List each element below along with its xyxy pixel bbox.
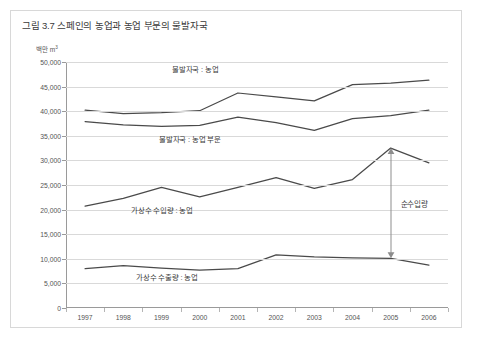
x-axis-tick-mark — [333, 308, 334, 312]
x-axis-tick-label: 1998 — [116, 314, 131, 321]
x-axis-tick-mark — [66, 308, 67, 312]
x-axis-tick-mark — [104, 308, 105, 312]
series-annotation-label: 가상수 수출량 : 농업 — [136, 271, 198, 282]
gridline — [66, 283, 448, 284]
y-axis-tick-label: 35,000 — [40, 132, 61, 139]
gridline — [66, 111, 448, 112]
y-axis-unit-text: 백만 m — [36, 46, 55, 53]
x-axis-tick-mark — [142, 308, 143, 312]
y-axis-tick-mark — [62, 234, 66, 235]
series-annotation-label: 가상수 수입량 : 농업 — [131, 204, 193, 215]
y-axis-tick-mark — [62, 136, 66, 137]
x-axis-tick-mark — [295, 308, 296, 312]
y-axis-unit-label: 백만 m3 — [36, 44, 58, 54]
series-line-가상수 수입량 : 농업 — [85, 148, 429, 206]
x-axis-tick-mark — [410, 308, 411, 312]
x-axis-tick-label: 2003 — [307, 314, 322, 321]
x-axis-tick-mark — [219, 308, 220, 312]
figure-page: 그림 3.7 스페인의 농업과 농업 부문의 물발자국 백만 m3 05,000… — [0, 0, 485, 341]
series-annotation-label: 물발자국 : 농업 부문 — [159, 133, 221, 144]
y-axis-tick-mark — [62, 111, 66, 112]
y-axis-tick-label: 25,000 — [40, 182, 61, 189]
gridline — [66, 62, 448, 63]
y-axis-tick-label: 20,000 — [40, 206, 61, 213]
y-axis-tick-label: 5,000 — [44, 280, 61, 287]
y-axis-tick-label: 30,000 — [40, 157, 61, 164]
x-axis-tick-label: 2005 — [383, 314, 398, 321]
x-axis-tick-label: 2006 — [421, 314, 436, 321]
y-axis-tick-mark — [62, 62, 66, 63]
x-axis-tick-mark — [372, 308, 373, 312]
x-axis-tick-mark — [181, 308, 182, 312]
net-import-label: 순수입량 — [401, 198, 428, 209]
x-axis-tick-label: 1999 — [154, 314, 169, 321]
gridline — [66, 87, 448, 88]
x-axis-tick-label: 2002 — [269, 314, 284, 321]
net-import-arrow — [383, 148, 399, 258]
y-axis-tick-mark — [62, 185, 66, 186]
y-axis-tick-label: 0 — [57, 305, 61, 312]
y-axis-tick-mark — [62, 283, 66, 284]
x-axis-tick-label: 1997 — [78, 314, 93, 321]
x-axis-tick-mark — [257, 308, 258, 312]
series-line-가상수 수출량 : 농업 — [85, 255, 429, 270]
x-axis-tick-label: 2001 — [230, 314, 245, 321]
y-axis-unit-superscript: 3 — [55, 45, 58, 50]
gridline — [66, 259, 448, 260]
y-axis-tick-mark — [62, 259, 66, 260]
series-line-물발자국 : 농업 — [85, 80, 429, 113]
gridline — [66, 136, 448, 137]
x-axis-tick-label: 2000 — [192, 314, 207, 321]
y-axis-tick-label: 40,000 — [40, 108, 61, 115]
y-axis-tick-label: 50,000 — [40, 59, 61, 66]
y-axis-tick-mark — [62, 160, 66, 161]
x-axis-tick-label: 2004 — [345, 314, 360, 321]
y-axis-tick-label: 10,000 — [40, 255, 61, 262]
series-annotation-label: 물발자국 : 농업 — [172, 63, 218, 74]
y-axis-tick-label: 45,000 — [40, 83, 61, 90]
y-axis-tick-mark — [62, 87, 66, 88]
figure-title: 그림 3.7 스페인의 농업과 농업 부문의 물발자국 — [22, 18, 208, 32]
y-axis-tick-label: 15,000 — [40, 231, 61, 238]
x-axis-tick-mark — [448, 308, 449, 312]
y-axis-tick-mark — [62, 210, 66, 211]
